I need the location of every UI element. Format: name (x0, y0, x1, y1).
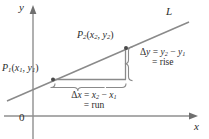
point-p1-marker (51, 78, 55, 82)
y-axis-arrowhead (30, 5, 37, 14)
slope-diagram-figure: y x 0 L P1(x1, y1) P2(x2, y2) Δy = y2 − … (0, 0, 209, 139)
delta-x-annotation: Δx = x2 − x1= run (52, 91, 136, 111)
line-L-label: L (166, 6, 172, 18)
x-axis-arrowhead (189, 113, 198, 120)
delta-x-alias: = run (52, 101, 136, 111)
delta-y-annotation: Δy = y2 − y1= rise (140, 48, 185, 68)
x-axis-label: x (194, 121, 199, 133)
point-p1-label: P1(x1, y1) (2, 63, 39, 74)
point-p2-marker (124, 46, 128, 50)
point-p2-label: P2(x2, y2) (77, 30, 114, 41)
y-axis-label: y (19, 2, 24, 14)
origin-label: 0 (19, 112, 25, 124)
delta-y-alias: = rise (140, 58, 185, 68)
